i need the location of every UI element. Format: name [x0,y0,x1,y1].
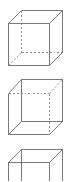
cube-1 [9,11,63,66]
cube-3-diag-top-right [50,150,63,163]
cube-1-diag-bottom-right [50,53,63,66]
cubes-diagram [0,0,69,181]
cube-3-front-face [9,163,50,182]
cube-1-diag-bottom-left-hidden [9,53,22,66]
cube-3-diag-top-left [9,150,22,163]
cube-2-back-face [22,80,63,122]
cube-2 [9,80,63,135]
cube-2-diag-bottom-right [50,122,63,135]
cube-1-diag-top-left [9,11,22,24]
cube-2-diag-bottom-left [9,122,22,135]
cube-2-diag-top-right-hidden [50,80,63,94]
cube-1-diag-top-right [50,11,63,24]
cube-2-diag-top-left [9,80,22,94]
cube-3 [9,150,63,182]
cube-3-back-face [22,150,63,182]
